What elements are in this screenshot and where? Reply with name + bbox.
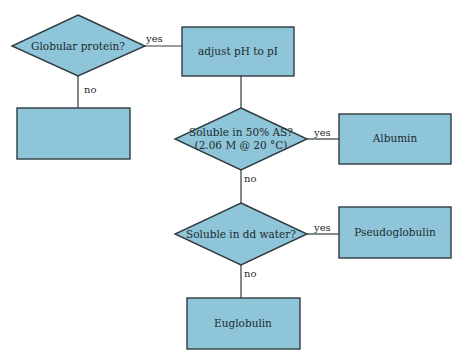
edge-label-water-yes: yes: [313, 222, 331, 233]
flowchart-canvas: Globular protein? adjust pH to pI Solubl…: [0, 0, 468, 363]
edge-label-water-no: no: [244, 268, 256, 279]
edge-label-globular-yes: yes: [145, 33, 163, 44]
result-euglobulin-label: Euglobulin: [214, 317, 272, 329]
decision-as-label-line1: Soluble in 50% AS?: [189, 126, 293, 138]
decision-soluble-as: Soluble in 50% AS? (2.06 M @ 20 °C): [175, 108, 307, 170]
result-albumin: Albumin: [339, 114, 451, 164]
result-pseudoglobulin: Pseudoglobulin: [339, 207, 451, 258]
result-pseudoglobulin-label: Pseudoglobulin: [354, 226, 436, 238]
decision-globular-label: Globular protein?: [31, 40, 125, 52]
decision-globular-protein: Globular protein?: [12, 15, 145, 76]
decision-as-label-line2: (2.06 M @ 20 °C): [195, 139, 288, 151]
edge-label-as-yes: yes: [313, 127, 331, 138]
process-adjust-ph: adjust pH to pI: [182, 27, 294, 76]
process-adjust-label: adjust pH to pI: [198, 45, 278, 57]
result-albumin-label: Albumin: [372, 132, 418, 144]
edge-label-as-no: no: [244, 173, 256, 184]
result-euglobulin: Euglobulin: [187, 298, 300, 349]
decision-soluble-water: Soluble in dd water?: [175, 203, 307, 265]
edge-label-globular-no: no: [84, 84, 96, 95]
process-empty-box: [17, 108, 130, 159]
decision-water-label: Soluble in dd water?: [186, 228, 296, 240]
